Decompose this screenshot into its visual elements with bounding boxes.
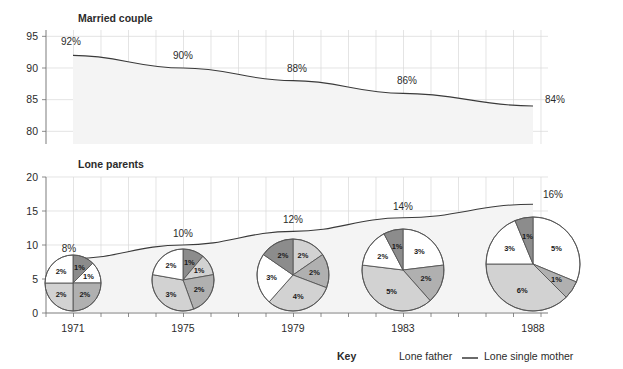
pie-slice-label-1983-2: 5% — [386, 287, 397, 296]
pie-slice-label-1971-4: 2% — [56, 267, 67, 276]
pie-slice-label-1988-4: 1% — [522, 232, 533, 241]
bottom-panel-y-ticks — [42, 177, 46, 313]
pie-chart-1979: 2%2%4%3%2% — [257, 239, 329, 311]
figure-canvas: 95908580 92%90%88%86%84% Married couple … — [0, 0, 623, 369]
pie-slice-label-1988-0: 5% — [551, 244, 562, 253]
pie-chart-1971: 1%1%2%2%2% — [45, 255, 101, 311]
top-y-tick-90: 90 — [26, 62, 38, 74]
bottom-panel-y-tick-labels: 20151050 — [26, 171, 38, 319]
panel-title-married-couple: Married couple — [78, 12, 153, 24]
married-couple-label-1979: 88% — [287, 63, 307, 74]
legend-title: Key — [337, 350, 356, 362]
top-panel-y-ticks — [42, 36, 46, 131]
x-axis-ticks — [46, 313, 541, 317]
pie-slice-label-1975-3: 3% — [166, 290, 177, 299]
pie-chart-1983: 3%2%5%2%1% — [362, 229, 444, 311]
pie-slice-label-1988-2: 6% — [517, 286, 528, 295]
pie-slice-label-1988-1: 1% — [551, 275, 562, 284]
married-couple-label-1975: 90% — [173, 50, 193, 61]
x-axis-label-1975: 1975 — [171, 322, 195, 334]
bottom-y-tick-10: 10 — [26, 239, 38, 251]
x-axis-label-1971: 1971 — [61, 322, 85, 334]
x-axis-label-1988: 1988 — [521, 322, 545, 334]
bottom-y-tick-20: 20 — [26, 171, 38, 183]
pie-slice-label-1971-0: 1% — [74, 263, 85, 272]
married-couple-label-1971: 92% — [61, 36, 81, 47]
top-y-tick-85: 85 — [26, 93, 38, 105]
pie-slice-label-1979-2: 4% — [293, 292, 304, 301]
pie-chart-1975: 1%1%2%3%2% — [152, 249, 214, 311]
pie-slice-label-1975-2: 2% — [194, 285, 205, 294]
top-y-tick-95: 95 — [26, 30, 38, 42]
lone-parents-label-1971: 8% — [62, 243, 77, 254]
pie-slice-label-1988-3: 3% — [504, 244, 515, 253]
pie-slice-label-1971-3: 2% — [56, 290, 67, 299]
pie-chart-1988: 5%1%6%3%1% — [486, 217, 580, 311]
lone-parents-label-1975: 10% — [173, 228, 193, 239]
pie-slice-label-1975-1: 1% — [194, 266, 205, 275]
married-couple-label-1983: 86% — [397, 75, 417, 86]
pie-slice-label-1979-0: 2% — [298, 251, 309, 260]
bottom-y-tick-5: 5 — [32, 273, 38, 285]
top-y-tick-80: 80 — [26, 125, 38, 137]
panel-married-couple: 95908580 92%90%88%86%84% Married couple — [26, 12, 565, 144]
pie-slice-label-1983-3: 2% — [377, 252, 388, 261]
panel-title-lone-parents: Lone parents — [78, 158, 144, 170]
lone-parents-label-1988: 16% — [543, 189, 563, 200]
x-axis-label-1979: 1979 — [281, 322, 305, 334]
panel-lone-parents: 20151050 8%10%12%14%16% 1%1%2%2%2%1%1%2%… — [26, 158, 580, 334]
pie-slice-label-1979-3: 3% — [266, 273, 277, 282]
pie-slice-label-1975-4: 2% — [166, 261, 177, 270]
pie-slice-label-1971-2: 2% — [79, 290, 90, 299]
bottom-y-tick-15: 15 — [26, 205, 38, 217]
lone-parents-label-1983: 14% — [393, 201, 413, 212]
legend-entry-lone-single-mother: Lone single mother — [484, 350, 574, 362]
pie-slice-label-1983-4: 1% — [392, 242, 403, 251]
lone-parents-label-1979: 12% — [283, 214, 303, 225]
legend: Key Lone father Lone single mother — [337, 350, 574, 362]
pie-slice-label-1971-1: 1% — [83, 272, 94, 281]
pie-slice-label-1983-1: 2% — [421, 274, 432, 283]
pie-slice-label-1979-1: 2% — [309, 268, 320, 277]
pie-slice-label-1983-0: 3% — [414, 247, 425, 256]
married-couple-label-1988: 84% — [545, 94, 565, 105]
x-axis-label-1983: 1983 — [391, 322, 415, 334]
top-panel-y-tick-labels: 95908580 — [26, 30, 38, 137]
x-axis-year-labels: 19711975197919831988 — [61, 322, 545, 334]
legend-entry-lone-father: Lone father — [399, 350, 453, 362]
chart-root: 95908580 92%90%88%86%84% Married couple … — [0, 0, 623, 369]
bottom-y-tick-0: 0 — [32, 307, 38, 319]
pie-slice-label-1979-4: 2% — [278, 251, 289, 260]
